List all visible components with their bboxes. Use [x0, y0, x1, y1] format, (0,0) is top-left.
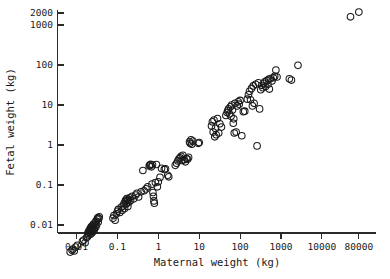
scatter-point [347, 14, 354, 21]
x-tick-label: 1000 [270, 241, 293, 252]
y-axis-label: Fetal weight (kg) [4, 68, 16, 175]
plot-canvas: 0.010.111010010002000 0.010.111010010001… [0, 0, 390, 279]
x-axis-ticks: 0.010.111010010001000080000 [65, 233, 373, 252]
y-tick-label: 1000 [30, 19, 53, 30]
scatter-point [295, 62, 302, 69]
scatter-point [140, 167, 147, 174]
y-tick-label: 0.01 [30, 219, 53, 230]
x-tick-label: 10000 [308, 241, 337, 252]
scatter-point [238, 132, 245, 139]
y-tick-label: 2000 [30, 7, 53, 18]
scatter-plot-figure: 0.010.111010010002000 0.010.111010010001… [0, 0, 390, 279]
y-tick-label: 10 [42, 99, 54, 110]
y-tick-label: 1 [47, 139, 53, 150]
scatter-point [256, 106, 263, 113]
x-tick-label: 1 [155, 241, 161, 252]
x-tick-label: 80000 [345, 241, 374, 252]
data-points [67, 9, 362, 256]
x-axis-label: Maternal weight (kg) [154, 256, 280, 268]
x-tick-label: 100 [232, 241, 249, 252]
y-axis-ticks: 0.010.111010010002000 [30, 7, 63, 230]
y-tick-label: 100 [36, 59, 53, 70]
scatter-point [288, 77, 295, 84]
scatter-point [356, 9, 363, 16]
y-tick-label: 0.1 [36, 179, 53, 190]
x-tick-label: 0.1 [109, 241, 126, 252]
x-tick-label: 10 [193, 241, 205, 252]
scatter-point [254, 143, 261, 150]
scatter-point [157, 174, 164, 181]
scatter-point [273, 67, 280, 74]
